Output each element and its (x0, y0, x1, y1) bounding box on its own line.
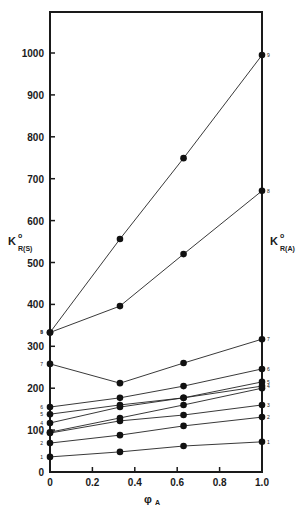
data-point (47, 420, 54, 427)
data-point (180, 443, 187, 450)
data-point (47, 361, 54, 368)
data-point (180, 155, 187, 162)
x-tick-label: 1.0 (255, 477, 269, 488)
left-axis-label-sup: o (18, 232, 22, 239)
curve-label-left: 9 (40, 329, 43, 335)
right-axis-label-sub: R(A) (280, 245, 295, 253)
data-point (117, 236, 124, 243)
data-point (117, 432, 124, 439)
curve-label-right: 8 (267, 188, 270, 194)
chart: 0100200300400500600700800900100000.20.40… (0, 0, 303, 505)
data-point (259, 402, 266, 409)
curve-label-left: 5 (40, 411, 43, 417)
data-point (47, 440, 54, 447)
data-point (47, 329, 54, 336)
curve-label-right: 3 (267, 402, 270, 408)
right-axis-label: K (270, 235, 278, 247)
curve-label-left: 3 (40, 430, 43, 436)
series-line (50, 442, 262, 457)
y-tick-label: 400 (27, 299, 44, 310)
y-tick-label: 700 (27, 174, 44, 185)
data-point (180, 423, 187, 430)
x-tick-label: 0.8 (213, 477, 227, 488)
data-point (180, 383, 187, 390)
curve-label-right: 1 (267, 439, 270, 445)
data-point (117, 380, 124, 387)
left-axis-label-sub: R(S) (18, 245, 32, 253)
data-point (180, 395, 187, 402)
x-axis-label: φ (144, 493, 152, 505)
data-point (259, 439, 266, 446)
curve-label-left: 7 (40, 361, 43, 367)
data-point (117, 395, 124, 402)
data-point (259, 188, 266, 195)
curve-label-right: 2 (267, 414, 270, 420)
data-point (259, 52, 266, 59)
curve-label-right: 6 (267, 366, 270, 372)
x-tick-label: 0.4 (128, 477, 142, 488)
y-tick-label: 500 (27, 258, 44, 269)
x-axis-label-sub: A (155, 499, 160, 505)
data-point (259, 414, 266, 421)
data-point (47, 411, 54, 418)
series-line (50, 417, 262, 443)
series-line (50, 55, 262, 332)
y-tick-label: 800 (27, 132, 44, 143)
curve-label-left: 4 (40, 420, 43, 426)
curve-label-left: 2 (40, 440, 43, 446)
y-tick-label: 0 (38, 467, 44, 478)
y-tick-label: 600 (27, 216, 44, 227)
y-tick-label: 200 (27, 383, 44, 394)
x-tick-label: 0.6 (170, 477, 184, 488)
x-tick-label: 0 (47, 477, 53, 488)
data-point (180, 412, 187, 419)
data-point (117, 303, 124, 310)
series-line (50, 405, 262, 433)
left-axis-label: K (8, 235, 16, 247)
y-tick-label: 1000 (22, 48, 45, 59)
data-point (47, 454, 54, 461)
y-tick-label: 300 (27, 341, 44, 352)
data-point (180, 360, 187, 367)
right-axis-label-sup: o (280, 232, 284, 239)
data-point (47, 404, 54, 411)
series-line (50, 339, 262, 383)
curve-label-right: 9 (267, 52, 270, 58)
series-line (50, 191, 262, 333)
data-point (117, 415, 124, 422)
data-point (259, 366, 266, 373)
data-point (47, 429, 54, 436)
curve-label-right: 5 (267, 379, 270, 385)
data-point (117, 449, 124, 456)
data-point (259, 336, 266, 343)
data-point (117, 402, 124, 409)
data-point (259, 379, 266, 386)
data-point (180, 251, 187, 258)
x-tick-label: 0.2 (85, 477, 99, 488)
curve-label-left: 1 (40, 454, 43, 460)
curve-label-left: 6 (40, 404, 43, 410)
curve-label-right: 7 (267, 336, 270, 342)
y-tick-label: 900 (27, 90, 44, 101)
data-point (180, 402, 187, 409)
